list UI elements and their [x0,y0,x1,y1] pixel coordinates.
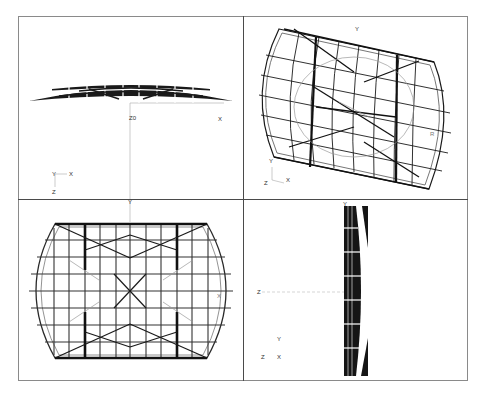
plan-right-marker: X [217,293,221,299]
iso-triad-x-label: X [286,177,290,183]
iso-right-marker: R [430,131,434,137]
plan-drawing [19,200,243,380]
side-top-y-label: Y [343,201,347,207]
front-triad-z-label: Z [52,189,56,195]
side-z-label: Z [257,289,261,295]
viewport-isometric: Y Y Z X R [244,17,467,199]
front-triad-y-label: Y [52,171,56,177]
plan-left-marker: Y [52,341,56,347]
viewport-front-elevation: Y X Z Z0 X [19,17,243,199]
front-x-end-label: X [218,116,222,122]
front-triad-x-label: X [69,171,73,177]
front-origin-label: Z0 [129,115,136,121]
side-triad-z-label: Z [261,354,265,360]
plan-top-y-label: Y [128,200,132,205]
iso-top-y-label: Y [355,26,359,32]
viewport-plan: Y X Y [19,200,243,380]
side-elevation-drawing [244,200,467,380]
isometric-drawing [244,17,467,199]
side-triad-x-label: X [277,354,281,360]
side-triad-y-label: Y [277,336,281,342]
iso-triad-y-label: Y [269,158,273,164]
iso-triad-z-label: Z [264,180,268,186]
viewport-side-elevation: Y Z Y Z X [244,200,467,380]
